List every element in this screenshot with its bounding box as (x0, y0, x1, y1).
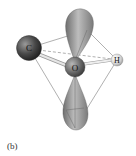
bottom-orbital-lobe (63, 74, 88, 130)
molecular-orbital-diagram: C O H (b) (0, 0, 136, 156)
atom-c: C (17, 36, 42, 61)
atom-o: O (65, 57, 85, 77)
atom-h: H (111, 54, 123, 66)
atom-label-c: C (26, 43, 32, 53)
atom-label-h: H (114, 56, 120, 65)
atom-label-o: O (72, 63, 79, 73)
edge-top-right (87, 30, 117, 60)
bond-c-o (38, 54, 68, 66)
panel-label: (b) (7, 141, 18, 151)
bond-o-h (84, 60, 112, 64)
